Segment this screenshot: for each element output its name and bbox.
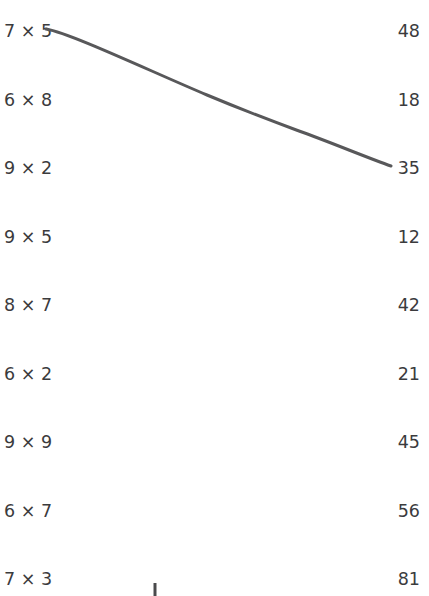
answer-item-9[interactable]: 81 [398,568,420,590]
answer-item-3[interactable]: 35 [398,157,420,179]
problem-item-2[interactable]: 6 × 8 [4,89,52,111]
answer-item-7[interactable]: 45 [398,431,420,453]
problem-item-4[interactable]: 9 × 5 [4,226,52,248]
answer-item-1[interactable]: 48 [398,20,420,42]
answer-item-5[interactable]: 42 [398,294,420,316]
answer-item-8[interactable]: 56 [398,500,420,522]
matching-worksheet: 7 × 56 × 89 × 29 × 58 × 76 × 29 × 96 × 7… [0,0,429,596]
problem-item-7[interactable]: 9 × 9 [4,431,52,453]
problem-item-6[interactable]: 6 × 2 [4,363,52,385]
answer-item-2[interactable]: 18 [398,89,420,111]
problem-item-3[interactable]: 9 × 2 [4,157,52,179]
problems-column: 7 × 56 × 89 × 29 × 58 × 76 × 29 × 96 × 7… [0,0,190,596]
answer-item-4[interactable]: 12 [398,226,420,248]
problem-item-8[interactable]: 6 × 7 [4,500,52,522]
problem-item-9[interactable]: 7 × 3 [4,568,52,590]
answers-column: 481835124221455681 [239,0,429,596]
problem-item-5[interactable]: 8 × 7 [4,294,52,316]
answer-item-6[interactable]: 21 [398,363,420,385]
problem-item-1[interactable]: 7 × 5 [4,20,52,42]
